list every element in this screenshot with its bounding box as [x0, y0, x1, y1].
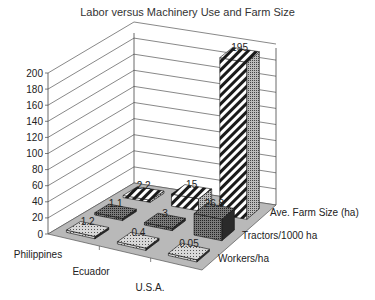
data-label: 15: [186, 179, 198, 190]
category-label: Ecuador: [72, 266, 110, 277]
y-tick-label: 180: [26, 84, 43, 95]
bar: [220, 47, 260, 219]
data-label: 195: [231, 42, 248, 53]
y-tick-label: 100: [26, 148, 43, 159]
y-tick-label: 0: [37, 229, 43, 240]
data-label: 1.2: [81, 216, 95, 227]
y-tick-label: 140: [26, 116, 43, 127]
series-label: Ave. Farm Size (ha): [270, 207, 359, 218]
y-axis: 020406080100120140160180200: [26, 68, 48, 240]
series-label: Workers/ha: [218, 253, 269, 264]
y-tick-label: 40: [32, 196, 44, 207]
y-tick-label: 60: [32, 180, 44, 191]
data-label: 0.4: [131, 227, 145, 238]
cropped-caption: [0, 292, 375, 300]
data-label: 2.2: [137, 180, 151, 191]
data-label: 1.1: [109, 198, 123, 209]
category-label: Philippines: [14, 249, 62, 260]
y-tick-label: 20: [32, 212, 44, 223]
y-tick-label: 120: [26, 132, 43, 143]
data-label: 26.8: [205, 198, 225, 209]
chart-3d-column: 2.2151951.1326.81.20.40.05 0204060801001…: [0, 0, 375, 300]
y-tick-label: 200: [26, 68, 43, 79]
y-tick-label: 80: [32, 164, 44, 175]
data-label: 3: [162, 208, 168, 219]
data-label: 0.05: [179, 238, 199, 249]
series-label: Tractors/1000 ha: [242, 230, 318, 241]
y-tick-label: 160: [26, 100, 43, 111]
